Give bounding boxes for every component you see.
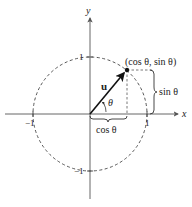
angle-theta-label: θ	[108, 97, 113, 108]
point-on-circle	[125, 68, 129, 72]
y-axis-label: y	[85, 5, 91, 16]
tick-label-y-pos: 1	[79, 52, 84, 62]
point-coordinates-label: (cos θ, sin θ)	[125, 56, 176, 68]
diagram-canvas: y x 1 −1 1 −1 u θ (cos θ, sin θ) sin θ c…	[0, 0, 192, 207]
tick-label-x-pos: 1	[145, 118, 150, 128]
sin-brace	[150, 70, 157, 114]
tick-label-x-neg: −1	[25, 118, 35, 128]
cos-brace	[90, 116, 127, 122]
vector-u-label: u	[101, 80, 107, 92]
cos-theta-label: cos θ	[96, 124, 117, 135]
angle-arc	[104, 104, 106, 112]
unit-circle-diagram: y x 1 −1 1 −1 u θ (cos θ, sin θ) sin θ c…	[0, 0, 192, 207]
tick-label-y-neg: −1	[74, 166, 84, 176]
x-axis-label: x	[181, 108, 187, 119]
sin-theta-label: sin θ	[159, 86, 178, 97]
